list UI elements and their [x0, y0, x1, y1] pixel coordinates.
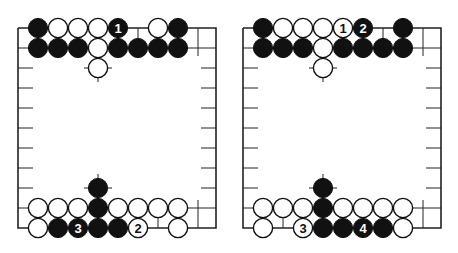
white-stone-top-c4-r1 [313, 38, 332, 57]
white-stone-top-c4-r2 [88, 58, 107, 77]
black-stone-bottom-c4-r2 [88, 178, 107, 197]
black-stone-top-c3-r1 [68, 38, 87, 57]
white-stone-bottom-c1-r1 [28, 198, 47, 217]
black-stone-bottom-c5-r0 [333, 218, 352, 237]
move-number: 1 [114, 21, 121, 36]
black-stone-top-c8-r1 [393, 38, 412, 57]
white-stone-top-c2-r0 [48, 18, 67, 37]
white-stone-bottom-c8-r0 [168, 218, 187, 237]
white-stone-bottom-c5-r1 [333, 198, 352, 217]
white-stone-bottom-c1-r1 [253, 198, 272, 217]
white-stone-top-c4-r0 [313, 18, 332, 37]
black-stone-top-c8-r0 [168, 18, 187, 37]
black-stone-bottom-c4-r0 [313, 218, 332, 237]
go-board-left: 132 [0, 0, 229, 253]
black-stone-top-c5-r0: 1 [108, 18, 127, 37]
black-stone-bottom-c2-r0 [48, 218, 67, 237]
black-stone-bottom-c4-r0 [88, 218, 107, 237]
white-stone-bottom-c8-r1 [393, 198, 412, 217]
black-stone-bottom-c4-r2 [313, 178, 332, 197]
black-stone-top-c6-r1 [353, 38, 372, 57]
white-stone-bottom-c2-r1 [273, 198, 292, 217]
move-number: 1 [339, 21, 346, 36]
white-stone-bottom-c3-r1 [68, 198, 87, 217]
black-stone-bottom-c6-r0: 4 [353, 218, 372, 237]
black-stone-top-c7-r1 [148, 38, 167, 57]
black-stone-top-c1-r1 [28, 38, 47, 57]
black-stone-top-c6-r0: 2 [353, 18, 372, 37]
go-board-right: 1234 [225, 0, 454, 253]
white-stone-bottom-c3-r1 [293, 198, 312, 217]
move-number: 3 [74, 221, 81, 236]
white-stone-top-c4-r2 [313, 58, 332, 77]
white-stone-bottom-c8-r1 [168, 198, 187, 217]
move-number: 3 [299, 221, 306, 236]
white-stone-bottom-c7-r1 [373, 198, 392, 217]
black-stone-top-c3-r1 [293, 38, 312, 57]
move-number: 2 [359, 21, 366, 36]
go-diagram-right: 1234 [225, 0, 454, 253]
black-stone-top-c7-r1 [373, 38, 392, 57]
black-stone-bottom-c5-r0 [108, 218, 127, 237]
white-stone-bottom-c3-r0: 3 [293, 218, 312, 237]
black-stone-bottom-c4-r1 [88, 198, 107, 217]
white-stone-bottom-c6-r1 [353, 198, 372, 217]
black-stone-top-c5-r1 [108, 38, 127, 57]
black-stone-bottom-c4-r1 [313, 198, 332, 217]
go-diagram-left: 132 [0, 0, 229, 253]
black-stone-top-c6-r1 [128, 38, 147, 57]
white-stone-top-c5-r0: 1 [333, 18, 352, 37]
white-stone-top-c2-r0 [273, 18, 292, 37]
black-stone-bottom-c7-r0 [373, 218, 392, 237]
white-stone-bottom-c5-r1 [108, 198, 127, 217]
white-stone-bottom-c2-r1 [48, 198, 67, 217]
white-stone-top-c4-r1 [88, 38, 107, 57]
white-stone-top-c3-r0 [68, 18, 87, 37]
black-stone-top-c2-r1 [273, 38, 292, 57]
black-stone-top-c8-r1 [168, 38, 187, 57]
white-stone-top-c7-r0 [148, 18, 167, 37]
black-stone-top-c1-r0 [253, 18, 272, 37]
black-stone-top-c8-r0 [393, 18, 412, 37]
black-stone-top-c1-r1 [253, 38, 272, 57]
white-stone-top-c3-r0 [293, 18, 312, 37]
white-stone-bottom-c8-r0 [393, 218, 412, 237]
white-stone-top-c4-r0 [88, 18, 107, 37]
move-number: 4 [359, 221, 367, 236]
white-stone-bottom-c6-r1 [128, 198, 147, 217]
white-stone-bottom-c1-r0 [253, 218, 272, 237]
move-number: 2 [134, 221, 141, 236]
black-stone-top-c5-r1 [333, 38, 352, 57]
black-stone-bottom-c3-r0: 3 [68, 218, 87, 237]
white-stone-bottom-c7-r1 [148, 198, 167, 217]
white-stone-bottom-c1-r0 [28, 218, 47, 237]
black-stone-top-c1-r0 [28, 18, 47, 37]
black-stone-top-c2-r1 [48, 38, 67, 57]
white-stone-bottom-c6-r0: 2 [128, 218, 147, 237]
